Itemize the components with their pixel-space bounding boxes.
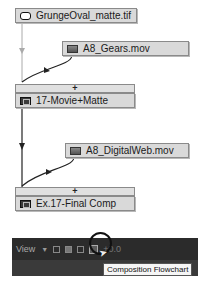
movie-icon bbox=[70, 147, 81, 155]
expand-layers-bar[interactable]: + bbox=[15, 84, 135, 93]
node-label: GrungeOval_matte.tif bbox=[36, 10, 131, 21]
flowchart-node-a8-gears[interactable]: A8_Gears.mov bbox=[62, 41, 189, 56]
flowchart-node-17-movie-matte[interactable]: 17-Movie+Matte bbox=[15, 93, 135, 108]
flowchart-node-final-comp[interactable]: Ex.17-Final Comp bbox=[15, 196, 135, 211]
node-label: 17-Movie+Matte bbox=[36, 95, 108, 106]
region-of-interest-icon[interactable] bbox=[65, 246, 72, 253]
tooltip: Composition Flowchart bbox=[103, 263, 192, 276]
composition-icon bbox=[20, 200, 31, 208]
movie-icon bbox=[67, 45, 78, 53]
node-label: Ex.17-Final Comp bbox=[36, 198, 116, 209]
chevron-down-icon[interactable]: ▼ bbox=[41, 246, 48, 253]
flowchart-node-a8-digitalweb[interactable]: A8_DigitalWeb.mov bbox=[65, 143, 189, 158]
transparency-grid-icon[interactable] bbox=[77, 246, 84, 253]
node-label: A8_Gears.mov bbox=[83, 43, 150, 54]
still-image-icon bbox=[20, 12, 31, 20]
view-menu[interactable]: View bbox=[16, 244, 35, 254]
flowchart-node-grungeoval-matte[interactable]: GrungeOval_matte.tif bbox=[15, 8, 137, 23]
grid-icon[interactable] bbox=[53, 246, 60, 253]
expand-layers-bar[interactable]: + bbox=[15, 187, 135, 196]
composition-icon bbox=[20, 97, 31, 105]
node-label: A8_DigitalWeb.mov bbox=[86, 145, 174, 156]
